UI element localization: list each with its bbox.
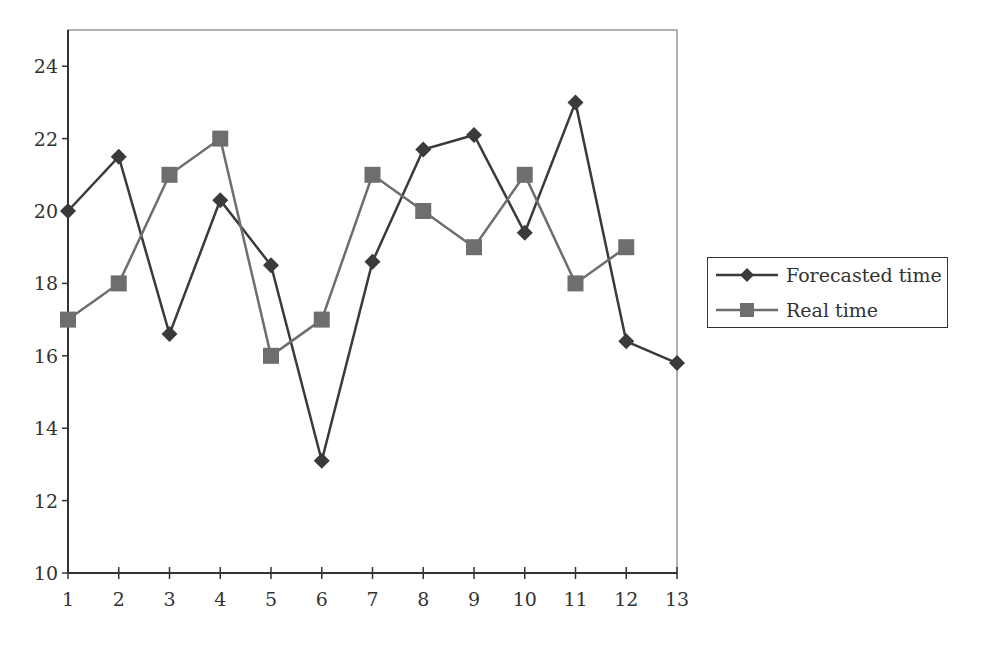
diamond-marker-icon — [415, 141, 431, 157]
square-marker-icon — [314, 312, 330, 328]
x-tick-label: 7 — [366, 588, 378, 610]
legend-label: Forecasted time — [786, 264, 942, 286]
y-tick-label: 22 — [34, 128, 58, 150]
square-marker-icon — [618, 239, 634, 255]
square-marker-icon — [365, 167, 381, 183]
square-marker-icon — [162, 167, 178, 183]
x-tick-label: 3 — [163, 588, 175, 610]
x-tick-label: 8 — [417, 588, 429, 610]
x-tick-label: 12 — [614, 588, 638, 610]
x-tick-label: 4 — [214, 588, 226, 610]
diamond-marker-icon — [618, 333, 634, 349]
x-tick-label: 2 — [113, 588, 125, 610]
x-tick-label: 11 — [563, 588, 587, 610]
diamond-marker-icon — [568, 94, 584, 110]
x-tick-label: 6 — [316, 588, 328, 610]
series-line — [68, 139, 626, 356]
diamond-marker-icon — [314, 453, 330, 469]
y-tick-label: 14 — [34, 417, 58, 439]
x-tick-label: 13 — [665, 588, 689, 610]
diamond-marker-icon — [669, 355, 685, 371]
y-tick-label: 16 — [34, 345, 58, 367]
square-marker-icon — [466, 239, 482, 255]
y-tick-label: 24 — [34, 55, 58, 77]
y-tick-label: 12 — [34, 490, 58, 512]
legend-item-real: Real time — [716, 296, 878, 324]
x-tick-label: 1 — [62, 588, 74, 610]
square-marker-icon — [517, 167, 533, 183]
y-tick-label: 10 — [34, 562, 58, 584]
square-marker-icon — [415, 203, 431, 219]
y-tick-label: 20 — [34, 200, 58, 222]
square-marker-icon — [60, 312, 76, 328]
legend: Forecasted time Real time — [707, 257, 948, 328]
series-line — [68, 102, 677, 460]
square-marker-icon — [111, 275, 127, 291]
y-tick-label: 18 — [34, 272, 58, 294]
legend-item-forecasted: Forecasted time — [716, 261, 942, 289]
square-marker-icon — [716, 300, 778, 320]
diamond-marker-icon — [162, 326, 178, 342]
x-tick-label: 5 — [265, 588, 277, 610]
square-marker-icon — [212, 131, 228, 147]
legend-label: Real time — [786, 299, 878, 321]
diamond-marker-icon — [365, 254, 381, 270]
square-marker-icon — [568, 275, 584, 291]
x-tick-label: 9 — [468, 588, 480, 610]
x-tick-label: 10 — [513, 588, 537, 610]
square-marker-icon — [263, 348, 279, 364]
diamond-marker-icon — [517, 225, 533, 241]
diamond-marker-icon — [466, 127, 482, 143]
diamond-marker-icon — [716, 265, 778, 285]
